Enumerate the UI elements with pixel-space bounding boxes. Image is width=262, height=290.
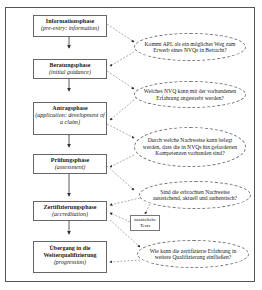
- phase-subtitle: (initial guidance): [35, 69, 105, 76]
- question-5: Wie kann die zertifizierte Erfahrung in …: [137, 240, 249, 268]
- phase-title: Antragsphase: [35, 105, 105, 112]
- phase-assessment: Prüfungsphase (assessment): [33, 154, 107, 174]
- question-2: Welches NVQ kann mit der vorhandenen Erf…: [134, 81, 246, 108]
- question-1: Kommt APL als ein möglicher Weg zum Erwe…: [134, 33, 246, 61]
- question-text: Sind die erbrachten Nachweise ausreichen…: [146, 189, 244, 202]
- phase-title: Prüfungsphase: [35, 157, 105, 164]
- phase-information: Informationsphase (pre-entry: informatio…: [33, 15, 107, 37]
- phase-subtitle: (application: development of a claim): [35, 112, 105, 126]
- note-text: zusätzliche Tests: [134, 217, 156, 228]
- additional-tests-note: zusätzliche Tests: [130, 215, 160, 231]
- phase-subtitle: (pre-entry: information): [35, 25, 105, 32]
- phase-subtitle: (progression): [35, 259, 105, 266]
- phase-guidance: Beratungsphase (initial guidance): [33, 59, 107, 79]
- question-4: Sind die erbrachten Nachweise ausreichen…: [139, 181, 251, 209]
- phase-title: Beratungsphase: [35, 62, 105, 69]
- phase-subtitle: (accreditation): [35, 211, 105, 218]
- phase-progression: Übergang in die Weiterqualifizierung (pr…: [33, 241, 107, 273]
- phase-title: Übergang in die Weiterqualifizierung: [35, 245, 105, 259]
- question-3: Durch welche Nachweise kann belegt werde…: [134, 127, 246, 167]
- question-text: Kommt APL als ein möglicher Weg zum Erwe…: [141, 41, 239, 54]
- phase-subtitle: (assessment): [35, 164, 105, 171]
- phase-accreditation: Zertifizierungsphase (accreditation): [33, 201, 107, 221]
- phase-title: Informationsphase: [35, 18, 105, 25]
- question-text: Wie kann die zertifizierte Erfahrung in …: [144, 248, 242, 261]
- question-text: Welches NVQ kann mit der vorhandenen Erf…: [141, 88, 239, 101]
- phase-title: Zertifizierungsphase: [35, 204, 105, 211]
- phase-application: Antragsphase (application: development o…: [33, 102, 107, 135]
- question-text: Durch welche Nachweise kann belegt werde…: [141, 137, 239, 157]
